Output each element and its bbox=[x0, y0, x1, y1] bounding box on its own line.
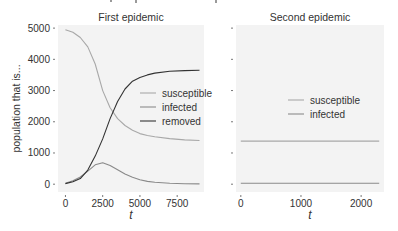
legend-label-susceptible: susceptible bbox=[310, 95, 360, 106]
y-axis-label: population that is... bbox=[10, 64, 22, 152]
x-tick-label: 7500 bbox=[166, 198, 189, 209]
x-tick-label: 2500 bbox=[92, 198, 115, 209]
y-axis: 010002000300040005000 bbox=[28, 23, 55, 190]
panel-title: Second epidemic bbox=[270, 11, 351, 23]
y-tick-label: 0 bbox=[44, 179, 50, 190]
x-axis: 010002000 bbox=[238, 195, 373, 209]
panel-first-epidemic: First epidemic 010002000300040005000 025… bbox=[10, 11, 212, 222]
x-axis: 0250050007500 bbox=[63, 195, 189, 209]
panel-title: First epidemic bbox=[98, 11, 163, 23]
x-tick-label: 0 bbox=[238, 198, 244, 209]
legend-label-susceptible: susceptible bbox=[162, 88, 212, 99]
panel-second-epidemic: Second epidemic 010002000 t susceptiblei… bbox=[231, 11, 384, 222]
x-axis-label: t bbox=[308, 208, 312, 222]
y-tick-label: 4000 bbox=[28, 54, 51, 65]
y-tick-label: 5000 bbox=[28, 23, 51, 34]
x-axis-label: t bbox=[129, 208, 133, 222]
x-tick-label: 0 bbox=[63, 198, 69, 209]
y-tick-label: 2000 bbox=[28, 116, 51, 127]
x-tick-label: 2000 bbox=[350, 198, 373, 209]
cropped-suptitle bbox=[110, 0, 217, 3]
legend-label-infected: infected bbox=[162, 102, 197, 113]
y-axis bbox=[231, 28, 233, 184]
chart-canvas: First epidemic 010002000300040005000 025… bbox=[0, 0, 398, 231]
y-tick-label: 3000 bbox=[28, 85, 51, 96]
figure: First epidemic 010002000300040005000 025… bbox=[0, 0, 398, 231]
y-tick-label: 1000 bbox=[28, 147, 51, 158]
legend-label-infected: infected bbox=[310, 109, 345, 120]
legend-label-removed: removed bbox=[162, 116, 201, 127]
